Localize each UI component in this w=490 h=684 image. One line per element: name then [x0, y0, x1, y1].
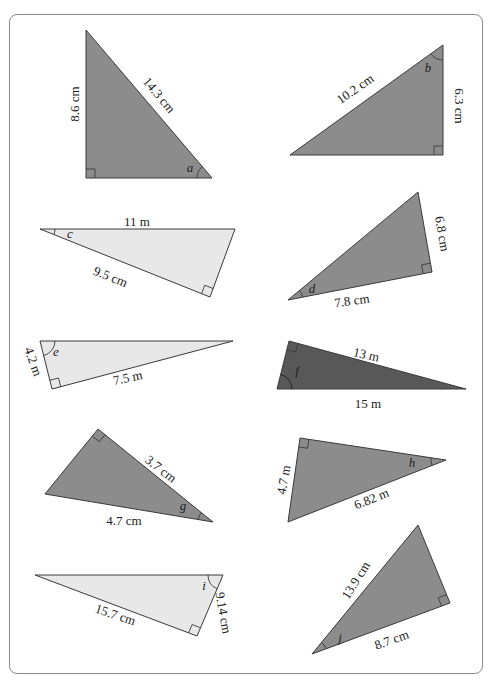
triangle-j: j13.9 cm8.7 cm	[312, 525, 450, 654]
triangle-a: a8.6 cm14.3 cm	[67, 30, 212, 178]
side-length-label: 9.5 cm	[91, 263, 129, 290]
triangle-c: c11 m9.5 cm	[40, 214, 235, 297]
triangle-g: g3.7 cm4.7 cm	[45, 429, 213, 528]
angle-label: c	[67, 226, 73, 241]
side-length-label: 4.7 m	[274, 464, 294, 496]
side-length-label: 6.3 cm	[452, 88, 467, 123]
triangle-i: i15.7 cm9.14 cm	[35, 575, 235, 636]
side-length-label: 8.6 cm	[67, 86, 82, 121]
angle-label: e	[53, 344, 59, 359]
triangle-shape	[290, 45, 443, 155]
angle-label: b	[425, 60, 432, 75]
triangle-d: d6.8 cm7.8 cm	[288, 192, 453, 310]
triangle-f: f13 m15 m	[277, 341, 466, 411]
side-length-label: 9.14 cm	[212, 591, 234, 635]
angle-label: i	[202, 578, 206, 593]
triangle-shape	[288, 438, 446, 522]
triangle-b: b10.2 cm6.3 cm	[290, 45, 467, 155]
triangle-shape	[86, 30, 212, 178]
triangles-diagram: a8.6 cm14.3 cmb10.2 cm6.3 cmc11 m9.5 cmd…	[0, 0, 490, 684]
angle-label: d	[309, 281, 316, 296]
side-length-label: 4.7 cm	[106, 513, 141, 528]
angle-label: a	[187, 160, 194, 175]
triangle-e: e4.2 m7.5 m	[21, 341, 233, 389]
side-length-label: 6.8 cm	[432, 215, 453, 252]
angle-label: h	[409, 455, 416, 470]
side-length-label: 15 m	[355, 396, 381, 411]
angle-label: g	[180, 498, 187, 513]
side-length-label: 7.8 cm	[333, 291, 370, 311]
triangle-shape	[45, 429, 213, 522]
triangle-shape	[35, 575, 223, 636]
triangle-h: h4.7 m6.82 m	[274, 438, 446, 522]
side-length-label: 8.7 cm	[372, 626, 410, 652]
side-length-label: 11 m	[124, 214, 150, 229]
